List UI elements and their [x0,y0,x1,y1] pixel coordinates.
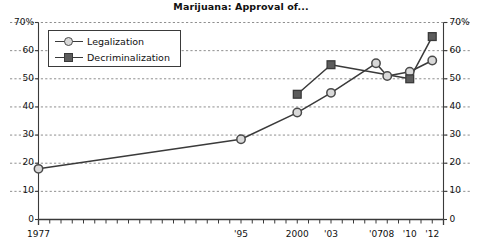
y-axis-tick-label-right: 60 [450,45,482,55]
legend-item-legalization: Legalization [55,33,144,49]
data-point [406,75,414,83]
y-axis-tick-label-left: 40 [0,101,34,111]
x-axis-tick-label: '10 [403,229,417,239]
legend-item-decriminalization: Decriminalization [55,49,170,65]
chart-legend: Legalization Decriminalization [48,30,181,67]
x-axis-tick-label: 2000 [286,229,309,239]
legend-swatch-square-icon [55,51,83,63]
y-axis-tick-label-left: 10 [0,185,34,195]
y-axis-tick-label-left: 0 [0,214,34,224]
data-point [383,72,391,80]
y-axis-tick-label-left: 20 [0,157,34,167]
legend-swatch-circle-icon [55,35,83,47]
data-point [327,89,335,97]
y-axis-tick-label-left: 60 [0,45,34,55]
data-point [428,56,436,64]
y-axis-tick-label-right: 0 [450,214,482,224]
x-axis-tick-label: 1977 [27,229,50,239]
y-axis-tick-label-left: 50 [0,73,34,83]
y-axis-tick-label-right: 40 [450,101,482,111]
data-point [237,135,245,143]
series-line-legalization [39,60,433,168]
y-axis-tick-label-right: 10 [450,185,482,195]
data-point [293,90,301,98]
y-axis-tick-label-right: 20 [450,157,482,167]
y-axis-tick-label-right: 30 [450,129,482,139]
data-point [372,59,380,67]
y-axis-tick-label-left: 30 [0,129,34,139]
chart-container: Marijuana: Approval of... Legalization D… [0,0,482,251]
x-axis-tick-label: '12 [425,229,439,239]
data-point [293,108,301,116]
data-point [34,165,42,173]
legend-label-decriminalization: Decriminalization [87,52,170,63]
series-line-decriminalization [297,37,432,95]
y-axis-tick-label-right: 50 [450,73,482,83]
data-point [327,61,335,69]
data-point [428,33,436,41]
legend-label-legalization: Legalization [87,36,144,47]
y-axis-tick-label-right: 70% [450,17,482,27]
y-axis-tick-label-left: 70% [0,17,34,27]
x-axis-tick-label: '03 [324,229,338,239]
x-axis-tick-label: '95 [234,229,248,239]
x-axis-tick-label: '08 [380,229,394,239]
